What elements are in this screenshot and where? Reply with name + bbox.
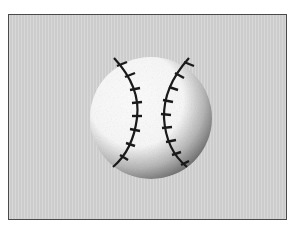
baseball-icon bbox=[9, 15, 286, 219]
cropped-caption-text: ……………………………… …………… bbox=[0, 0, 294, 2]
illustration-frame bbox=[8, 14, 287, 220]
